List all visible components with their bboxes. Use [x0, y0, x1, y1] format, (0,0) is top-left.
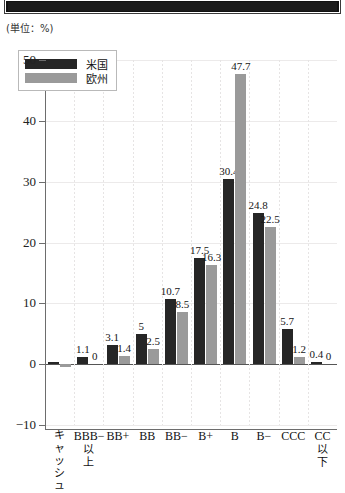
- banner-band: [5, 0, 340, 13]
- y-axis-label: 0: [0, 357, 36, 370]
- y-axis-tick: [39, 60, 46, 61]
- x-axis-label: CC以下: [307, 430, 337, 469]
- bar-us: [253, 213, 264, 364]
- bar-value-label: 1.4: [117, 343, 131, 354]
- x-axis-label-main: キャッシュ: [54, 430, 66, 493]
- bar-value-label: 47.7: [231, 61, 250, 72]
- x-axis-label-sub: 以上: [83, 444, 95, 469]
- bar-value-label: 22.5: [260, 214, 279, 225]
- v-gridline: [191, 60, 192, 425]
- y-axis-tick: [39, 182, 46, 183]
- bar-value-label: 0: [326, 351, 332, 362]
- v-gridline: [133, 60, 134, 425]
- legend-item-eu: 欧州: [25, 71, 108, 84]
- bar-us: [223, 179, 234, 364]
- bar-value-label: 5: [138, 321, 144, 332]
- x-axis-label: BB+: [103, 430, 133, 442]
- y-axis-label: 50: [0, 53, 36, 66]
- banner-band-inner: [8, 2, 337, 11]
- x-axis-label: BB: [132, 430, 162, 442]
- bar-value-label: 2.5: [146, 336, 160, 347]
- x-axis-label: CCC: [278, 430, 308, 442]
- x-axis-label-main: BBB−: [74, 430, 104, 442]
- bar-eu: [235, 74, 246, 364]
- v-gridline: [162, 60, 163, 425]
- bar-value-label: 10.7: [161, 286, 180, 297]
- bar-eu: [177, 312, 188, 364]
- bar-eu: [206, 265, 217, 364]
- x-axis-label-main: CCC: [278, 430, 308, 442]
- x-axis-label: B+: [191, 430, 221, 442]
- bar-value-label: 0.4: [310, 349, 324, 360]
- plot-area: [45, 60, 337, 425]
- x-axis-label-main: BB−: [161, 430, 191, 442]
- bar-us: [194, 258, 205, 364]
- unit-note: (単位：%): [6, 20, 53, 35]
- x-axis-label-main: B−: [249, 430, 279, 442]
- bar-us: [48, 362, 59, 364]
- bar-value-label: 1.1: [76, 344, 90, 355]
- bar-chart: 1.103.11.452.510.78.517.516.330.447.724.…: [0, 38, 345, 478]
- bar-us: [107, 345, 118, 364]
- bar-eu: [294, 357, 305, 364]
- y-axis-label: 40: [0, 114, 36, 127]
- y-axis-label: 10: [0, 296, 36, 309]
- x-axis-label: キャッシュ: [45, 430, 75, 493]
- bar-eu: [119, 356, 130, 365]
- x-axis-label-main: CC: [307, 430, 337, 442]
- y-axis-tick: [39, 364, 46, 365]
- x-axis-label: BB−: [161, 430, 191, 442]
- x-axis-label: B: [220, 430, 250, 442]
- y-axis-tick: [39, 425, 46, 426]
- x-axis-label-main: BB: [132, 430, 162, 442]
- top-banner: [0, 0, 345, 15]
- h-gridline: [45, 425, 337, 426]
- v-gridline: [308, 60, 309, 425]
- bar-value-label: 0: [92, 351, 98, 362]
- x-axis-label-main: B: [220, 430, 250, 442]
- bar-us: [77, 357, 88, 364]
- bar-us: [282, 329, 293, 364]
- bar-value-label: 5.7: [280, 316, 294, 327]
- bar-value-label: 8.5: [176, 299, 190, 310]
- legend-item-us: 米国: [25, 57, 108, 70]
- x-axis-label: B−: [249, 430, 279, 442]
- x-axis-labels: キャッシュBBB−以上BB+BBBB−B+BB−CCCCC以下: [45, 430, 337, 493]
- x-axis-label-sub: 以下: [316, 444, 328, 469]
- bar-eu: [60, 364, 71, 367]
- bar-value-label: 16.3: [202, 252, 221, 263]
- legend-label-eu: 欧州: [86, 70, 108, 86]
- y-axis-tick: [39, 243, 46, 244]
- bar-value-label: 24.8: [248, 200, 267, 211]
- v-gridline: [103, 60, 104, 425]
- y-axis-label: −10: [0, 418, 36, 431]
- bar-eu: [265, 227, 276, 364]
- v-gridline: [249, 60, 250, 425]
- bar-us: [311, 362, 322, 364]
- legend-swatch-eu: [25, 73, 77, 83]
- bar-eu: [148, 349, 159, 364]
- v-gridline: [74, 60, 75, 425]
- bar-us: [165, 299, 176, 364]
- x-axis-label-main: B+: [191, 430, 221, 442]
- v-gridline: [279, 60, 280, 425]
- bar-us: [136, 334, 147, 364]
- x-axis-label-main: BB+: [103, 430, 133, 442]
- y-axis-label: 30: [0, 175, 36, 188]
- y-axis-tick: [39, 303, 46, 304]
- y-axis-label: 20: [0, 236, 36, 249]
- v-gridline: [220, 60, 221, 425]
- y-axis-tick: [39, 121, 46, 122]
- x-axis-label: BBB−以上: [74, 430, 104, 469]
- bar-value-label: 1.2: [292, 344, 306, 355]
